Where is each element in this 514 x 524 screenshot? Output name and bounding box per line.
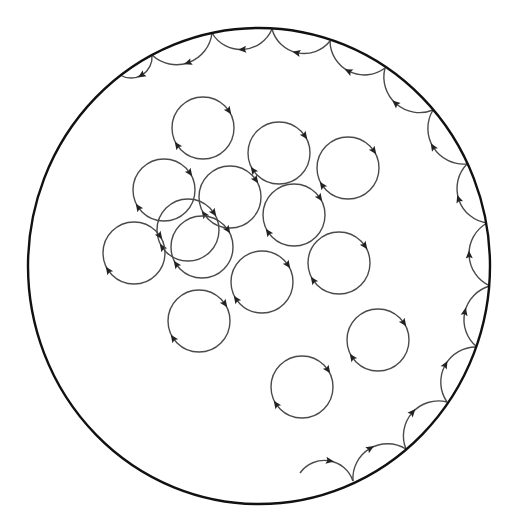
- edge-arrow-icon: [454, 194, 463, 204]
- edge-orbit-arc: [464, 286, 490, 347]
- edge-orbit-arc: [403, 401, 447, 449]
- vortex-orbit: [248, 122, 310, 184]
- vortex-orbit: [347, 309, 409, 371]
- interior-orbits: [103, 97, 409, 418]
- vortex-orbit: [133, 159, 195, 221]
- vortex-orbit: [171, 216, 233, 278]
- container-boundary: [28, 28, 490, 504]
- vortex-diagram: [0, 0, 514, 524]
- vortex-orbit: [263, 184, 325, 246]
- edge-arrow-icon: [343, 66, 353, 76]
- edge-orbit-arc: [152, 33, 212, 65]
- edge-arrow-icon: [441, 359, 451, 369]
- edge-orbit-arc: [384, 68, 433, 113]
- edge-orbit-arc: [353, 444, 406, 481]
- vortex-orbit: [317, 137, 379, 199]
- vortex-orbit: [308, 232, 370, 294]
- vortex-orbit: [199, 166, 261, 228]
- vortex-orbit: [168, 290, 230, 352]
- vortex-orbit: [271, 356, 333, 418]
- edge-arrow-icon: [365, 443, 375, 453]
- edge-orbit-arc: [441, 347, 477, 402]
- edge-orbit-arc: [300, 460, 353, 481]
- vortex-orbit: [157, 199, 219, 261]
- edge-orbits: [120, 29, 490, 481]
- edge-orbit-arc: [330, 41, 385, 75]
- edge-arrow-icon: [428, 141, 438, 151]
- vortex-orbit: [172, 97, 234, 159]
- edge-arrow-icon: [183, 58, 193, 67]
- vortex-orbit: [103, 222, 165, 284]
- edge-orbit-arc: [428, 110, 467, 164]
- vortex-orbit: [231, 251, 293, 313]
